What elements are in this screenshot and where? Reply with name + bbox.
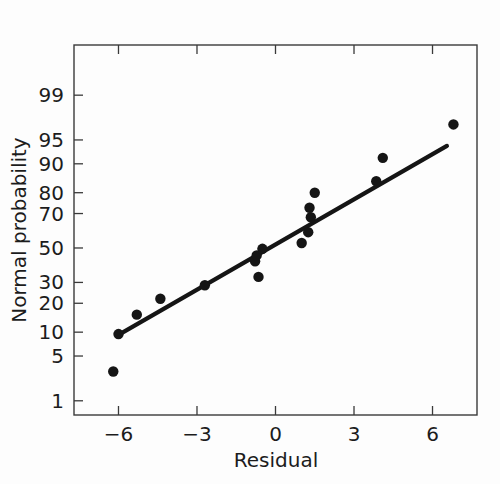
y-tick-label: 99	[39, 83, 64, 107]
data-point	[303, 227, 313, 237]
figure-background	[0, 0, 500, 484]
y-tick-label: 1	[51, 389, 64, 413]
x-tick-label: −3	[182, 422, 211, 446]
y-tick-label: 95	[39, 128, 64, 152]
y-tick-label: 5	[51, 344, 64, 368]
data-point	[296, 238, 306, 248]
data-point	[306, 212, 316, 222]
y-axis-title: Normal probability	[7, 137, 31, 323]
data-point	[200, 280, 210, 290]
y-tick-label: 50	[39, 236, 64, 260]
data-point	[378, 153, 388, 163]
data-point	[371, 176, 381, 186]
normal-probability-plot-figure: 15102030507080909599 −6−3036 Residual No…	[0, 0, 500, 484]
x-tick-label: 0	[269, 422, 282, 446]
y-tick-label: 10	[39, 320, 64, 344]
data-point	[113, 329, 123, 339]
y-tick-label: 20	[39, 291, 64, 315]
x-tick-label: 3	[348, 422, 361, 446]
y-tick-label: 70	[39, 202, 64, 226]
data-point	[108, 366, 118, 376]
data-point	[257, 244, 267, 254]
data-point	[132, 309, 142, 319]
data-point	[304, 203, 314, 213]
x-axis-title: Residual	[234, 448, 318, 472]
y-tick-label: 80	[39, 181, 64, 205]
y-tick-label: 90	[39, 152, 64, 176]
plot-canvas: 15102030507080909599 −6−3036 Residual No…	[0, 0, 500, 484]
data-point	[253, 272, 263, 282]
data-point	[448, 119, 458, 129]
data-point	[310, 188, 320, 198]
x-tick-label: −6	[104, 422, 133, 446]
y-tick-label: 30	[39, 270, 64, 294]
data-point	[155, 294, 165, 304]
x-tick-label: 6	[426, 422, 439, 446]
